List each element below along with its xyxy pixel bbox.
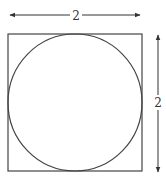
height-label: 2 <box>154 96 162 110</box>
diagram-canvas: 2 2 <box>0 0 166 176</box>
square <box>8 34 142 171</box>
height-dimension: 2 <box>154 35 162 172</box>
width-label: 2 <box>72 9 80 23</box>
width-dimension: 2 <box>10 9 140 23</box>
inscribed-circle <box>8 34 142 171</box>
